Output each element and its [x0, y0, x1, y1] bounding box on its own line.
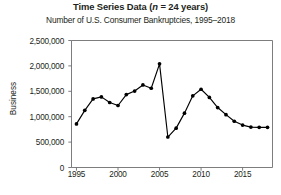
- data-point-marker: [91, 97, 95, 101]
- data-point-marker: [141, 83, 145, 87]
- data-point-marker: [108, 101, 112, 105]
- data-point-marker: [266, 126, 270, 130]
- data-point-marker: [257, 126, 261, 130]
- data-point-marker: [191, 94, 195, 98]
- data-point-marker: [232, 119, 236, 123]
- plot-area: [0, 0, 281, 195]
- data-point-markers: [75, 62, 270, 139]
- data-point-marker: [116, 104, 120, 108]
- data-point-marker: [158, 62, 162, 66]
- data-point-marker: [83, 109, 87, 113]
- data-point-marker: [199, 87, 203, 91]
- data-point-marker: [124, 93, 128, 97]
- data-point-marker: [208, 96, 212, 100]
- chart-figure: Time Series Data (n = 24 years) Number o…: [0, 0, 281, 195]
- data-point-marker: [216, 106, 220, 110]
- plot-frame: [72, 41, 273, 168]
- data-point-marker: [249, 125, 253, 129]
- data-point-marker: [149, 86, 153, 90]
- data-point-marker: [183, 111, 187, 115]
- data-point-marker: [224, 113, 228, 117]
- data-point-marker: [241, 123, 245, 127]
- data-point-marker: [174, 126, 178, 130]
- data-point-marker: [100, 95, 104, 99]
- data-point-marker: [166, 135, 170, 139]
- data-point-marker: [133, 89, 137, 93]
- data-series-line: [76, 64, 267, 137]
- data-point-marker: [75, 122, 79, 126]
